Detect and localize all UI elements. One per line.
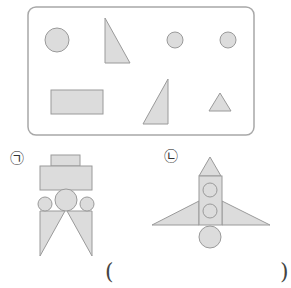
figure-label-robot: ㉠ <box>10 151 24 165</box>
robot-figure <box>38 155 94 256</box>
small-circle-shape <box>220 32 236 48</box>
small-circle-shape <box>167 32 183 48</box>
answer-blank[interactable] <box>118 262 278 284</box>
large-circle-shape <box>45 28 69 52</box>
figure-canvas <box>0 0 291 288</box>
shape-box <box>28 7 254 135</box>
answer-close-paren: ) <box>280 261 289 283</box>
rectangle-shape <box>51 90 103 114</box>
figure-label-rocket: ㉡ <box>164 149 178 163</box>
rocket-figure <box>152 157 270 248</box>
answer-open-paren: ( <box>105 261 114 283</box>
